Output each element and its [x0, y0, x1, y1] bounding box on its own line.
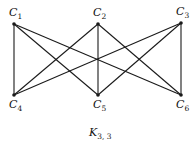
graph-title-subscript: 3, 3	[97, 132, 112, 141]
label-c5: C5	[93, 98, 106, 113]
node-c5	[96, 93, 100, 97]
graph-title: K3, 3	[88, 126, 112, 141]
node-c6	[179, 93, 183, 97]
node-c1	[12, 22, 16, 26]
label-c3: C3	[176, 5, 189, 20]
label-c1: C1	[9, 6, 22, 21]
k33-graph: C1C2C3C4C5C6 K3, 3	[0, 0, 194, 143]
label-c4: C4	[9, 98, 22, 113]
node-c4	[12, 93, 16, 97]
node-c3	[179, 21, 183, 25]
label-c6: C6	[176, 98, 189, 113]
edges	[14, 23, 181, 95]
node-c2	[96, 22, 100, 26]
label-c2: C2	[93, 6, 106, 21]
